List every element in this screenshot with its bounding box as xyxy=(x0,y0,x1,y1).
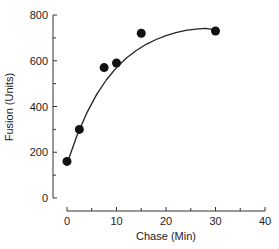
x-tick-label: 40 xyxy=(259,215,271,227)
data-point xyxy=(112,59,121,68)
y-tick-label: 400 xyxy=(30,101,48,113)
fit-curve xyxy=(67,28,216,163)
y-tick-label: 800 xyxy=(30,9,48,21)
x-tick-label: 30 xyxy=(209,215,221,227)
data-point xyxy=(75,125,84,134)
y-tick-label: 0 xyxy=(42,192,48,204)
fusion-chase-chart: 0200400600800 010203040 Chase (Min) Fusi… xyxy=(0,0,279,249)
data-point xyxy=(63,157,72,166)
x-axis: 010203040 xyxy=(64,207,271,227)
x-axis-title: Chase (Min) xyxy=(136,230,196,242)
data-point xyxy=(137,29,146,38)
y-tick-label: 600 xyxy=(30,55,48,67)
x-tick-label: 20 xyxy=(160,215,172,227)
y-tick-label: 200 xyxy=(30,146,48,158)
x-tick-label: 0 xyxy=(64,215,70,227)
data-point xyxy=(100,63,109,72)
x-tick-label: 10 xyxy=(110,215,122,227)
y-axis-title: Fusion (Units) xyxy=(3,73,15,141)
fit-curve-line xyxy=(67,28,216,163)
data-point xyxy=(211,27,220,36)
y-axis: 0200400600800 xyxy=(30,9,57,204)
